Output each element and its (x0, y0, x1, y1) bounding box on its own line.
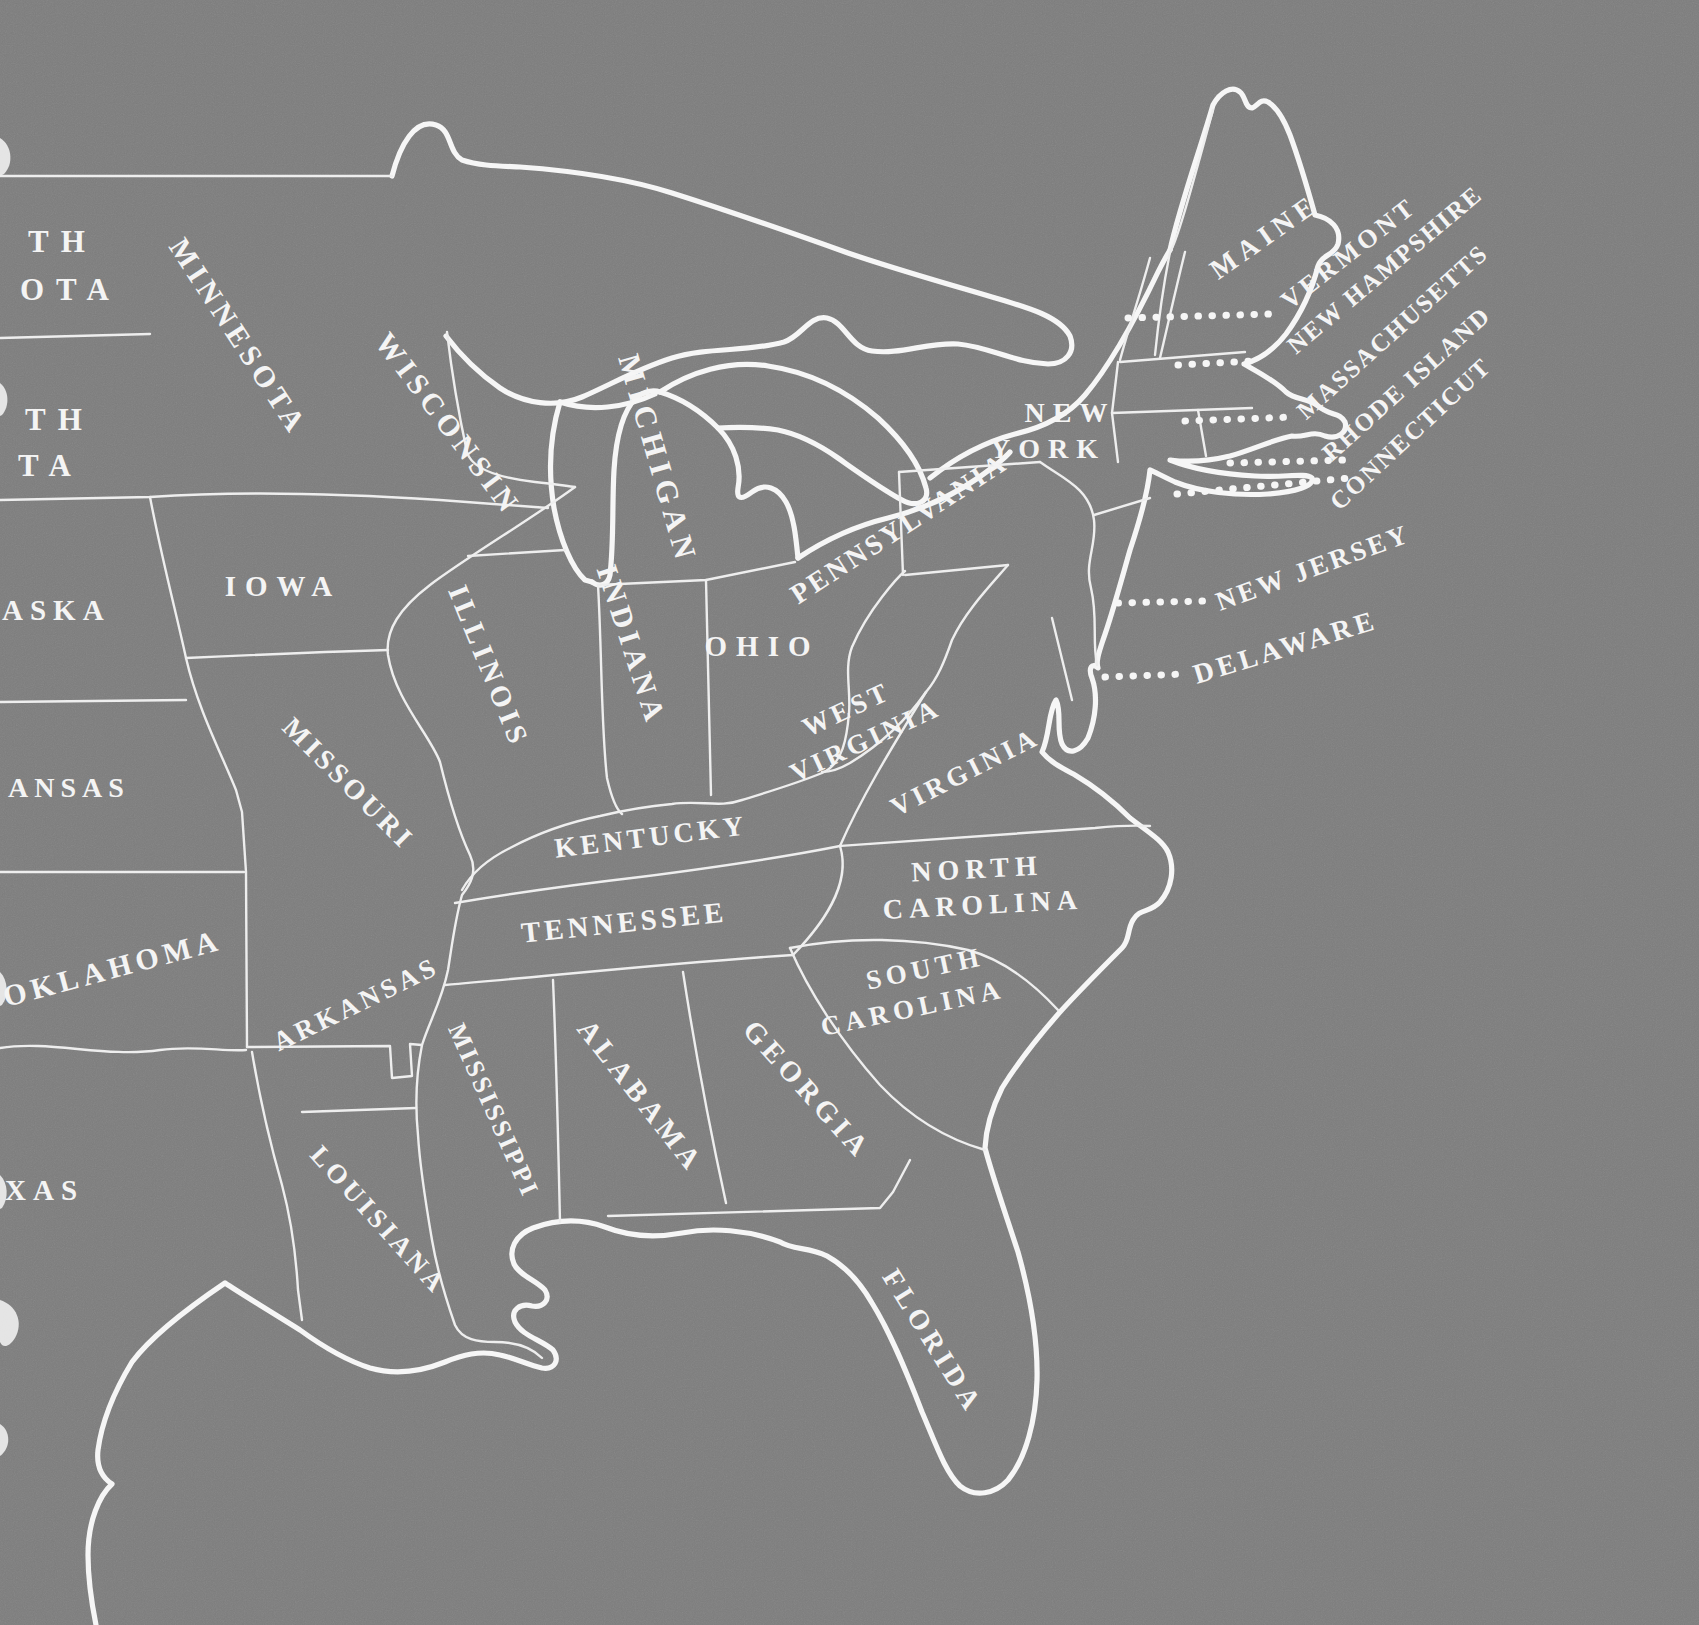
delaware-leader-dots (1105, 674, 1185, 677)
state-label-texas: XAS (5, 1174, 84, 1206)
svg-text:TH: TH (28, 224, 97, 259)
state-label-nebraska: ASKA (2, 594, 111, 626)
svg-text:OTA: OTA (20, 272, 121, 307)
state-label-ohio: OHIO (705, 630, 820, 662)
paper-grain-texture (0, 0, 1699, 1625)
svg-text:TH: TH (25, 402, 94, 437)
state-label-kansas: ANSAS (8, 772, 130, 803)
svg-text:TA: TA (18, 448, 83, 483)
state-label-iowa: IOWA (225, 570, 342, 602)
us-eastern-states-map: TH OTA TH TA ASKA ANSAS OKLAHOMA XAS MIN… (0, 0, 1699, 1625)
map-page: TH OTA TH TA ASKA ANSAS OKLAHOMA XAS MIN… (0, 0, 1699, 1625)
svg-text:NEW: NEW (1025, 397, 1116, 428)
svg-text:YORK: YORK (990, 433, 1106, 464)
